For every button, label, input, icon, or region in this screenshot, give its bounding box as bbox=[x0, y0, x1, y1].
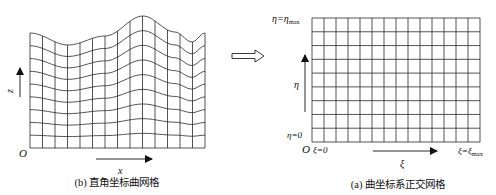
eta-zero-label: η=0 bbox=[287, 131, 302, 140]
xi-max-text: ξ=ξ bbox=[458, 146, 472, 156]
caption-right: (a) 曲坐标系正交网格 bbox=[351, 180, 445, 191]
orthogonal-curvilinear-grid bbox=[312, 18, 480, 142]
transform-arrow-icon bbox=[232, 50, 264, 62]
origin-label-right: O bbox=[302, 144, 310, 155]
caption-left: (b) 直角坐标曲网格 bbox=[75, 178, 160, 189]
curvilinear-cartesian-grid bbox=[30, 16, 205, 148]
x-axis-label: x bbox=[118, 166, 122, 176]
origin-label-left: O bbox=[19, 148, 27, 159]
xi-axis-label: ξ bbox=[400, 159, 404, 169]
eta-max-subscript: max bbox=[289, 18, 300, 25]
xi-max-label: ξ=ξmax bbox=[458, 147, 483, 158]
figure-canvas bbox=[0, 0, 496, 195]
eta-max-label: η=ηmax bbox=[272, 14, 300, 26]
z-axis-label: z bbox=[5, 89, 15, 93]
eta-axis-label: η bbox=[294, 80, 299, 90]
eta-max-text: η=η bbox=[272, 13, 289, 24]
xi-max-subscript: max bbox=[472, 150, 483, 157]
xi-zero-label: ξ=0 bbox=[313, 146, 327, 155]
